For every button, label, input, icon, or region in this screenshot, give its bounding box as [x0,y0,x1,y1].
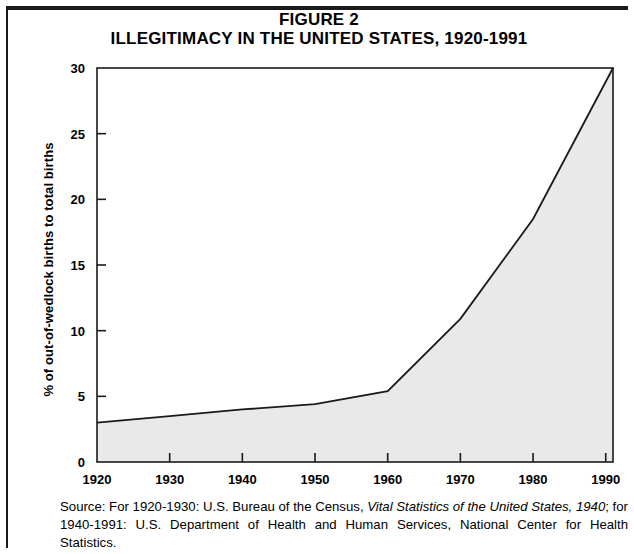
x-tick-label: 1950 [301,472,330,487]
y-axis-ticks [97,134,106,397]
y-tick-label: 30 [71,61,85,76]
source-italic-title: Vital Statistics of the United States, 1… [367,499,605,514]
x-tick-label: 1960 [373,472,402,487]
x-tick-label: 1940 [228,472,257,487]
y-tick-label: 5 [78,389,85,404]
x-tick-label: 1980 [519,472,548,487]
y-tick-label: 0 [78,455,85,470]
source-note: Source: For 1920-1930: U.S. Bureau of th… [60,498,628,552]
y-tick-label: 15 [71,258,85,273]
source-prefix: Source: For 1920-1930: U.S. Bureau of th… [60,499,367,514]
x-tick-label: 1930 [155,472,184,487]
figure-page: FIGURE 2 ILLEGITIMACY IN THE UNITED STAT… [0,0,634,554]
area-chart: 051015202530 192019301940195019601970198… [0,0,634,500]
x-tick-label: 1920 [83,472,112,487]
y-tick-label: 25 [71,127,85,142]
y-tick-label: 10 [71,324,85,339]
area-fill [97,68,613,462]
y-tick-label: 20 [71,192,85,207]
y-axis-tick-labels: 051015202530 [71,61,85,470]
x-tick-label: 1990 [591,472,620,487]
y-axis-title: % of out-of-wedlock births to total birt… [41,125,56,415]
chart-area: 051015202530 192019301940195019601970198… [0,0,634,500]
x-axis-tick-labels: 19201930194019501960197019801990 [83,472,621,487]
x-tick-label: 1970 [446,472,475,487]
